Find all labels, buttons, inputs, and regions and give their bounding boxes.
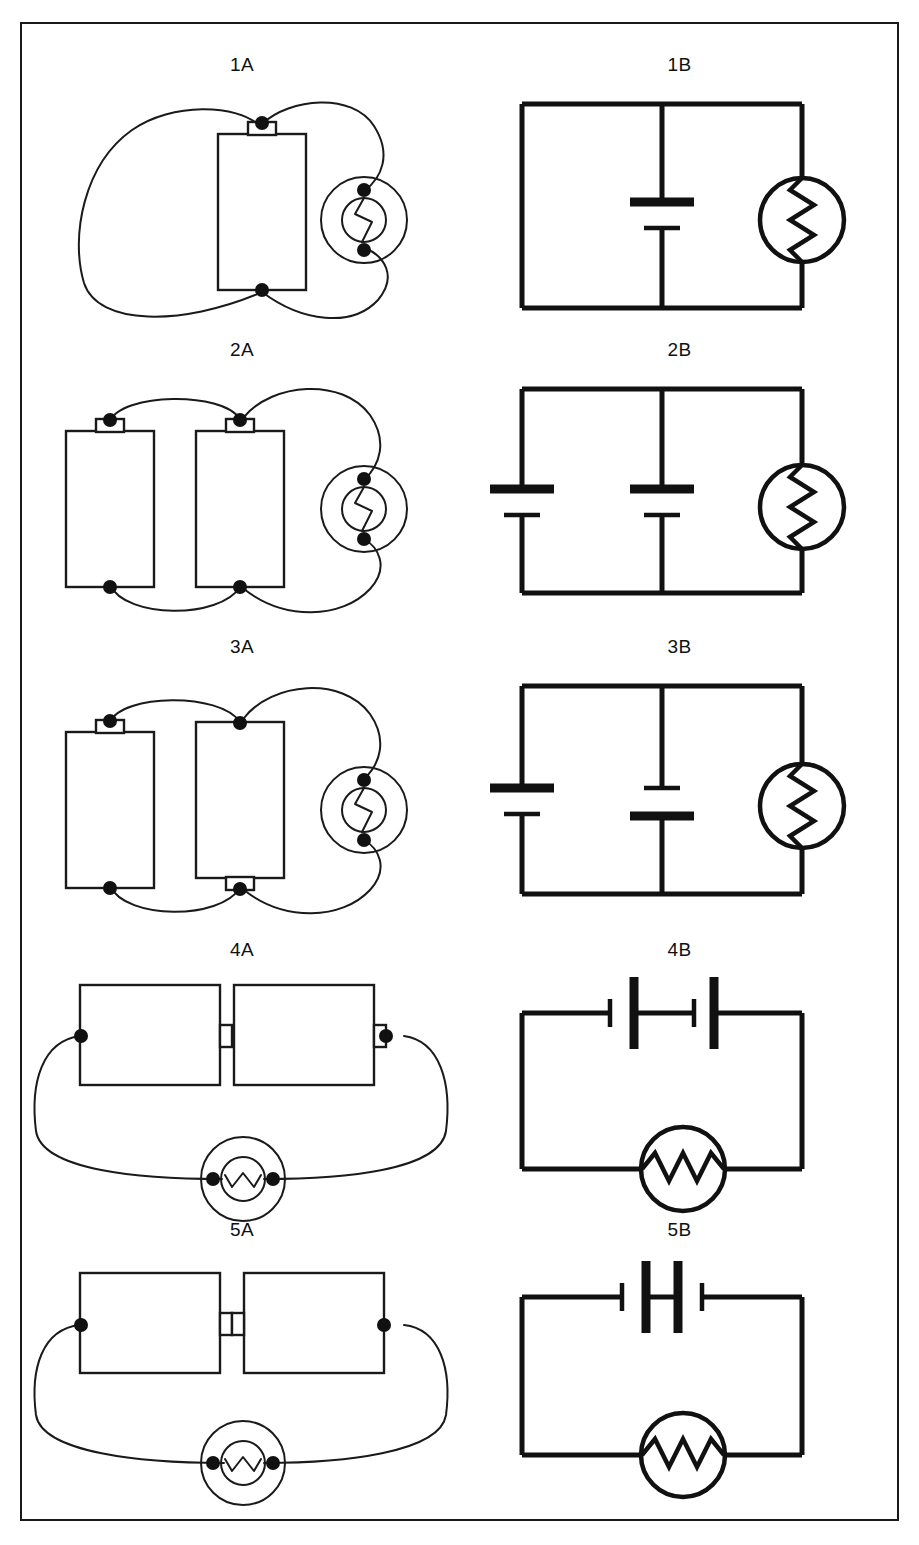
battery-cell-body bbox=[234, 985, 374, 1085]
battery-cell-body bbox=[244, 1273, 384, 1373]
battery-cell-body bbox=[66, 732, 154, 888]
battery-positive-terminal bbox=[220, 1025, 232, 1047]
lamp-filament-icon bbox=[790, 178, 814, 262]
lamp-inner-globe bbox=[342, 487, 386, 531]
figure-4b-caption: 4B bbox=[462, 939, 897, 961]
figure-1a: 1A bbox=[22, 54, 462, 334]
figure-3a-caption: 3A bbox=[22, 636, 462, 658]
lamp-filament-icon bbox=[790, 465, 814, 549]
figure-3b: 3B bbox=[462, 636, 897, 926]
connection-node bbox=[233, 716, 247, 730]
figure-2a-drawing bbox=[22, 363, 462, 624]
lamp-circle bbox=[760, 178, 844, 262]
lamp-contact-node bbox=[206, 1172, 220, 1186]
figure-2b-drawing bbox=[462, 363, 897, 624]
connection-node bbox=[103, 714, 117, 728]
figure-5a-caption: 5A bbox=[22, 1219, 462, 1241]
left-and-bottom-wire bbox=[522, 1297, 642, 1455]
wire-bottom-link bbox=[110, 585, 240, 611]
battery-cell-body bbox=[196, 431, 284, 587]
wire-top-link bbox=[110, 700, 240, 722]
right-and-bottom-wire bbox=[724, 1013, 802, 1169]
figure-5b-drawing bbox=[462, 1243, 897, 1499]
lamp-contact-node bbox=[357, 833, 371, 847]
connection-node bbox=[233, 882, 247, 896]
lamp-filament-icon bbox=[642, 1153, 724, 1181]
figure-5a: 5A bbox=[22, 1219, 462, 1499]
figure-3a: 3A bbox=[22, 636, 462, 926]
connection-node bbox=[103, 413, 117, 427]
connection-node bbox=[233, 580, 247, 594]
lamp-filament-icon bbox=[225, 1457, 261, 1471]
connection-node bbox=[103, 580, 117, 594]
lamp-filament-icon bbox=[355, 788, 372, 832]
figure-4b: 4B bbox=[462, 939, 897, 1214]
lamp-circle bbox=[760, 465, 844, 549]
connection-node bbox=[377, 1318, 391, 1332]
lamp-contact-node bbox=[266, 1172, 280, 1186]
figure-1a-caption: 1A bbox=[22, 54, 462, 76]
connection-node bbox=[74, 1318, 88, 1332]
battery-cell-body bbox=[218, 134, 306, 290]
lamp-filament-icon bbox=[790, 764, 814, 848]
figure-1b: 1B bbox=[462, 54, 897, 334]
lamp-filament-icon bbox=[355, 198, 372, 242]
lamp-filament-icon bbox=[225, 1173, 261, 1187]
lamp-contact-node bbox=[266, 1456, 280, 1470]
battery-cell-body bbox=[66, 431, 154, 587]
figure-1b-drawing bbox=[462, 78, 897, 334]
connection-node bbox=[255, 116, 269, 130]
connection-node bbox=[74, 1029, 88, 1043]
lamp-filament-icon bbox=[355, 487, 372, 531]
figure-page: 1A bbox=[0, 0, 919, 1545]
lamp-inner-globe bbox=[342, 788, 386, 832]
connection-node bbox=[255, 283, 269, 297]
connection-node bbox=[379, 1029, 393, 1043]
battery-cell-body bbox=[196, 722, 284, 878]
lamp-contact-node bbox=[357, 183, 371, 197]
figure-3b-drawing bbox=[462, 660, 897, 926]
figure-2a-caption: 2A bbox=[22, 339, 462, 361]
figure-2a: 2A bbox=[22, 339, 462, 624]
battery-positive-terminal bbox=[232, 1313, 244, 1335]
lamp-circle bbox=[760, 764, 844, 848]
figure-4a: 4A bbox=[22, 939, 462, 1214]
battery-cell-body bbox=[80, 1273, 220, 1373]
right-and-bottom-wire bbox=[724, 1297, 802, 1455]
wire-top-link bbox=[110, 399, 240, 421]
figure-border: 1A bbox=[20, 22, 899, 1521]
figure-2b: 2B bbox=[462, 339, 897, 624]
lamp-contact-node bbox=[206, 1456, 220, 1470]
figure-4b-drawing bbox=[462, 963, 897, 1214]
wire-bottom-link bbox=[110, 886, 240, 912]
lamp-inner-globe bbox=[342, 198, 386, 242]
figure-5a-drawing bbox=[22, 1243, 462, 1499]
figure-1b-caption: 1B bbox=[462, 54, 897, 76]
figure-3b-caption: 3B bbox=[462, 636, 897, 658]
figure-grid: 1A bbox=[22, 24, 897, 1519]
lamp-contact-node bbox=[357, 532, 371, 546]
left-and-bottom-wire bbox=[522, 1013, 642, 1169]
lamp-circle bbox=[641, 1127, 725, 1211]
figure-3a-drawing bbox=[22, 660, 462, 926]
lamp-filament-icon bbox=[642, 1439, 724, 1467]
connection-node bbox=[233, 413, 247, 427]
figure-1a-drawing bbox=[22, 78, 462, 334]
lamp-contact-node bbox=[357, 773, 371, 787]
figure-5b-caption: 5B bbox=[462, 1219, 897, 1241]
battery-positive-terminal bbox=[220, 1313, 232, 1335]
lamp-contact-node bbox=[357, 472, 371, 486]
lamp-circle bbox=[641, 1413, 725, 1497]
figure-4a-caption: 4A bbox=[22, 939, 462, 961]
figure-5b: 5B bbox=[462, 1219, 897, 1499]
connection-node bbox=[103, 881, 117, 895]
lamp-contact-node bbox=[357, 243, 371, 257]
figure-2b-caption: 2B bbox=[462, 339, 897, 361]
figure-4a-drawing bbox=[22, 963, 462, 1214]
battery-cell-body bbox=[80, 985, 220, 1085]
